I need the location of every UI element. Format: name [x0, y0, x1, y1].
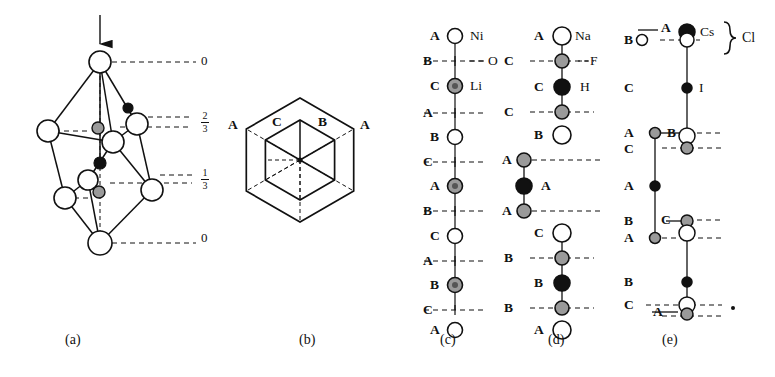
- panel-c-row-label: B: [430, 129, 439, 145]
- caption-b: (b): [299, 332, 315, 348]
- atom-open-circle: [126, 113, 148, 135]
- panel-d-row-label: A: [541, 178, 551, 194]
- species-label-li: Li: [470, 78, 482, 94]
- atom-open-circle: [637, 35, 648, 46]
- panel-d-graphics: [516, 27, 600, 339]
- panel-d-row-label: A: [534, 322, 544, 338]
- level-label-0-top: 0: [201, 54, 208, 67]
- level-label-one-third: 1 3: [198, 168, 212, 191]
- panel-e-row-label: A: [624, 230, 634, 246]
- panel-c-row-label: C: [430, 228, 440, 244]
- panel-c-row-label: C: [430, 78, 440, 94]
- panel-e-row-label: B: [667, 125, 676, 141]
- species-label-ni: Ni: [470, 28, 484, 44]
- panel-d-row-label: A: [534, 28, 544, 44]
- atom-open-circle: [141, 179, 163, 201]
- atom-open-circle: [553, 27, 571, 45]
- atom-black-circle: [554, 79, 570, 95]
- atom-open-circle: [448, 130, 463, 145]
- atom-gray-circle: [555, 301, 569, 315]
- atom-gray-circle: [555, 105, 569, 119]
- cell-edges: [48, 62, 152, 243]
- species-label-h: H: [580, 79, 590, 95]
- panel-e-row-label: A: [653, 304, 663, 320]
- species-label-i: I: [699, 80, 704, 96]
- atom-open-circle: [88, 231, 112, 255]
- panel-c-row-label: A: [430, 28, 440, 44]
- atom-open-circle: [37, 120, 59, 142]
- panel-d-row-label: C: [504, 104, 514, 120]
- panel-c-row-label: C: [423, 154, 433, 170]
- panel-e-row-label: C: [624, 141, 634, 157]
- hexagon-label-b: B: [318, 114, 327, 130]
- atom-open-circle: [553, 126, 571, 144]
- atom-gray-circle: [92, 122, 104, 134]
- atom-open-circle: [54, 187, 76, 209]
- panel-d-row-label: B: [504, 250, 513, 266]
- atom-open-circle: [553, 224, 571, 242]
- panel-c-row-label: A: [430, 322, 440, 338]
- atom-black-circle: [516, 178, 532, 194]
- atom-gray-circle: [517, 204, 531, 218]
- panel-d-row-label: B: [504, 300, 513, 316]
- atom-open-circle: [102, 131, 124, 153]
- species-label-f: F: [590, 53, 598, 69]
- panel-a-graphics: [37, 15, 196, 255]
- panel-d-row-label: C: [534, 225, 544, 241]
- panel-d-axis-segments: [524, 36, 562, 310]
- panel-e-row-label: B: [624, 32, 633, 48]
- atom-black-circle: [682, 277, 692, 287]
- atom-open-circle: [89, 51, 111, 73]
- atom-gray-circle: [555, 54, 569, 68]
- figure-crystal-structures: 0 2 3 1 3 0 A C B A A B C A B C A B C A …: [0, 0, 775, 377]
- caption-d: (d): [548, 332, 564, 348]
- panel-b-graphics: [246, 98, 353, 222]
- panel-d-row-label: A: [502, 203, 512, 219]
- level-guides: [55, 62, 196, 243]
- atom-open-circle: [680, 33, 694, 47]
- panel-e-row-label: B: [624, 274, 633, 290]
- atom-open-circle: [448, 229, 463, 244]
- panel-c-row-label: B: [430, 277, 439, 293]
- hexagon-center-dot: [297, 157, 302, 162]
- panel-d-row-label: B: [534, 275, 543, 291]
- panel-c-row-label: A: [423, 253, 433, 269]
- atom-gray-circle: [517, 153, 531, 167]
- species-label-cl: Cl: [742, 30, 755, 46]
- atom-open-circle: [448, 29, 463, 44]
- hexagon-label-a-right: A: [360, 117, 370, 133]
- panel-e-row-label: A: [661, 20, 671, 36]
- panel-e-stray-dot: [731, 306, 735, 310]
- atom-black-circle: [94, 157, 106, 169]
- caption-c: (c): [440, 332, 456, 348]
- panel-c-row-label: A: [430, 178, 440, 194]
- atom-gray-circle: [93, 186, 105, 198]
- atom-black-circle: [123, 103, 133, 113]
- panel-e-row-label: A: [624, 178, 634, 194]
- atom-open-circle: [679, 225, 695, 241]
- panel-e-row-label: C: [624, 80, 634, 96]
- hexagon-label-a-left: A: [228, 117, 238, 133]
- panel-d-row-label: C: [504, 53, 514, 69]
- caption-a: (a): [65, 332, 81, 348]
- atom-gray-circle: [681, 142, 693, 154]
- panel-c-row-label: A: [423, 105, 433, 121]
- atom-gray-circle: [681, 308, 693, 320]
- panel-e-graphics: [637, 22, 737, 320]
- level-label-two-thirds: 2 3: [198, 111, 212, 134]
- species-label-o: O: [488, 53, 498, 69]
- hexagon-label-c: C: [272, 114, 282, 130]
- cl-brace: [724, 22, 736, 54]
- atom-black-circle: [682, 83, 692, 93]
- panel-e-atoms: [637, 24, 696, 320]
- panel-e-level-dashes: [646, 40, 722, 316]
- panel-d-row-label: A: [502, 152, 512, 168]
- atom-black-circle: [650, 181, 660, 191]
- figure-graphics: [0, 0, 775, 377]
- panel-c-row-label: C: [423, 302, 433, 318]
- panel-d-row-label: B: [534, 127, 543, 143]
- atom-gray-circle: [650, 128, 661, 139]
- atom-gray-circle: [555, 251, 569, 265]
- species-label-cs: Cs: [700, 24, 714, 40]
- panel-d-row-label: C: [534, 79, 544, 95]
